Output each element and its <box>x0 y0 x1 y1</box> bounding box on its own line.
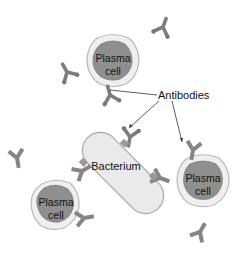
antibody-free-top-right <box>151 15 176 39</box>
antibody-below-top-cell <box>98 84 122 107</box>
antibody-free-bottom-right <box>190 220 211 243</box>
diagram-canvas: Plasma cell Bacterium Plasma cell Plasma <box>0 0 239 255</box>
antibodies-label: Antibodies <box>158 89 210 101</box>
plasma-cell-right: Plasma cell <box>177 155 229 207</box>
leader-line-top <box>110 90 157 95</box>
antibody-free-left <box>54 59 80 85</box>
bacterium-label: Bacterium <box>91 160 141 172</box>
plasma-cell-label-line1: Plasma <box>38 196 73 208</box>
plasma-cell-top: Plasma cell <box>87 35 139 87</box>
plasma-cell-label-line1: Plasma <box>185 172 220 184</box>
leader-line-bacterium <box>129 101 159 128</box>
plasma-cell-label-line2: cell <box>48 209 64 221</box>
antibody-free-far-left <box>9 149 26 169</box>
plasma-cell-label-line2: cell <box>105 65 121 77</box>
plasma-cell-bottom-left: Plasma cell <box>31 180 79 229</box>
plasma-cell-label-line2: cell <box>195 185 211 197</box>
plasma-cell-label-line1: Plasma <box>95 52 130 64</box>
antibody-diagram: Plasma cell Bacterium Plasma cell Plasma <box>0 0 239 255</box>
antibodies-callout: Antibodies <box>110 89 210 142</box>
leader-line-right <box>172 101 182 142</box>
antibody-bound-top <box>119 126 141 148</box>
